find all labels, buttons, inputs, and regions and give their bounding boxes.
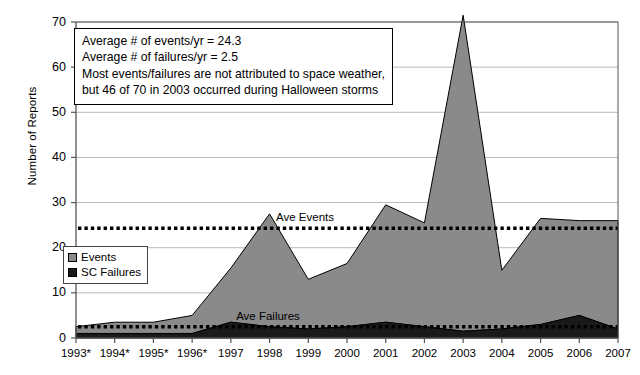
- x-tick-label: 2004: [489, 347, 515, 359]
- x-tick-label: 1996*: [177, 347, 207, 359]
- x-tick-label: 2007: [605, 347, 631, 359]
- annotation-line: Most events/failures are not attributed …: [82, 66, 385, 82]
- x-tick-label: 2005: [528, 347, 554, 359]
- legend-swatch-icon: [68, 253, 77, 262]
- x-tick-label: 1997: [218, 347, 244, 359]
- legend-item-label: Events: [81, 250, 116, 265]
- reference-line-label: Ave Events: [276, 211, 334, 223]
- annotation-line: but 46 of 70 in 2003 occurred during Hal…: [82, 82, 385, 98]
- x-tick-label: 1995*: [138, 347, 168, 359]
- x-tick-label: 1999: [295, 347, 321, 359]
- x-tick-label: 1993*: [61, 347, 91, 359]
- x-tick-label: 1998: [257, 347, 283, 359]
- x-tick-label: 2000: [334, 347, 360, 359]
- annotation-line: Average # of failures/yr = 2.5: [82, 49, 385, 65]
- annotation-textbox: Average # of events/yr = 24.3Average # o…: [74, 28, 393, 105]
- x-tick-label: 2001: [373, 347, 399, 359]
- annotation-line: Average # of events/yr = 24.3: [82, 33, 385, 49]
- x-tick-label: 2002: [412, 347, 438, 359]
- x-tick-label: 1994*: [100, 347, 130, 359]
- legend-item[interactable]: SC Failures: [68, 265, 141, 280]
- x-tick-label: 2003: [450, 347, 476, 359]
- chart-legend: EventsSC Failures: [63, 246, 148, 284]
- legend-item[interactable]: Events: [68, 250, 141, 265]
- legend-swatch-icon: [68, 268, 77, 277]
- chart-container: Number of Reports 010203040506070 1993*1…: [0, 0, 640, 375]
- x-tick-label: 2006: [566, 347, 592, 359]
- reference-line-label: Ave Failures: [236, 310, 300, 322]
- legend-item-label: SC Failures: [81, 265, 141, 280]
